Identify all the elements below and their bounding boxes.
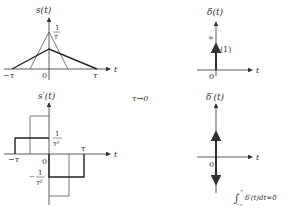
xlabel: t	[256, 66, 260, 75]
tick-neg-tau: −τ	[3, 71, 15, 80]
weight-label: (1)	[220, 45, 231, 54]
wide-triangle	[12, 49, 97, 69]
xlabel: t	[114, 150, 118, 159]
pos-num: 1	[55, 130, 59, 138]
peak-num: 1	[55, 24, 59, 32]
origin: 0	[42, 71, 47, 80]
narrow-neg-pulse	[49, 154, 69, 196]
wide-pos-pulse	[15, 138, 49, 154]
ylabel: δ(t)	[207, 7, 224, 17]
limit-label: τ→0	[132, 94, 148, 103]
origin: 0	[42, 157, 47, 166]
integral-lower: −∞	[236, 202, 243, 207]
wide-neg-pulse	[49, 154, 84, 177]
signal-diagram: s(t) t 1 τ −τ 0 τ s′(t) t 1 τ² − 1 τ² −τ…	[0, 0, 288, 211]
integral-expression: δ′(t)dt=0	[245, 194, 277, 202]
ylabel: s′(t)	[38, 91, 56, 101]
tick-tau: τ	[93, 71, 98, 80]
ylabel: δ′(t)	[206, 92, 225, 102]
peak-den: τ	[54, 33, 58, 41]
xlabel: t	[256, 153, 260, 162]
panel-s-prime: s′(t) t 1 τ² − 1 τ² −τ 0 τ	[4, 91, 118, 205]
panel-delta: δ(t) t ∞ (1) 0	[197, 7, 260, 81]
narrow-pos-pulse	[30, 116, 49, 154]
ylabel: s(t)	[36, 5, 52, 15]
origin: 0	[209, 72, 214, 81]
neg-den: τ²	[36, 179, 43, 187]
origin: 0	[209, 160, 214, 169]
xlabel: t	[114, 65, 118, 74]
tick-tau: τ	[81, 144, 86, 153]
integral-upper: ∞	[240, 188, 243, 193]
neg-sign: −	[29, 173, 35, 181]
infinity-label: ∞	[208, 34, 214, 42]
panel-delta-prime: δ′(t) t 0 ∫ ∞ −∞ δ′(t)dt=0	[197, 92, 277, 207]
panel-s: s(t) t 1 τ −τ 0 τ	[3, 5, 118, 80]
pos-den: τ²	[53, 140, 60, 148]
neg-num: 1	[38, 169, 42, 177]
tick-neg-tau: −τ	[8, 155, 20, 164]
